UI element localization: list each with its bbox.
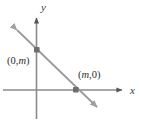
y-intercept-second-coord: m bbox=[18, 55, 26, 66]
y-intercept-label: (0,m) bbox=[7, 56, 29, 67]
y-intercept-point bbox=[34, 47, 40, 53]
y-axis-label: y bbox=[41, 2, 46, 13]
x-axis-label: x bbox=[130, 85, 135, 96]
x-intercept-close-paren: ) bbox=[97, 69, 101, 80]
x-intercept-label: (m,0) bbox=[78, 70, 100, 81]
y-intercept-close-paren: ) bbox=[26, 55, 30, 66]
coordinate-plane-figure: y x (0,m) (m,0) bbox=[0, 0, 141, 122]
x-intercept-first-coord: m bbox=[82, 69, 90, 80]
x-intercept-point bbox=[73, 87, 79, 93]
